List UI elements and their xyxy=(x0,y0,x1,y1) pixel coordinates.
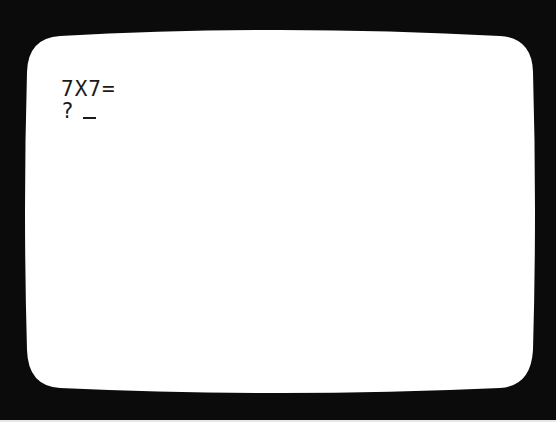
input-prompt: ? xyxy=(61,99,75,123)
math-question: 7X7= xyxy=(61,78,116,100)
input-line[interactable]: ? xyxy=(61,100,116,122)
text-cursor xyxy=(83,117,96,119)
crt-screen xyxy=(0,0,556,422)
terminal-output: 7X7= ? xyxy=(61,78,116,122)
